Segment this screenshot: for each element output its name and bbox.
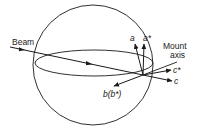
a-axis-arrow xyxy=(135,44,143,75)
b-axis-arrow xyxy=(114,75,143,86)
a-star-label: a* xyxy=(143,33,152,43)
b-bstar-label: b(b*) xyxy=(103,89,122,99)
sphere-outline xyxy=(33,5,153,125)
c-star-axis-arrow xyxy=(143,70,171,75)
diagram-canvas: Beam a a* Mount axis c* c b(b*) xyxy=(0,0,198,132)
c-label: c xyxy=(174,76,179,86)
a-label: a xyxy=(130,33,135,43)
beam-arrowhead-entry-icon xyxy=(19,47,25,51)
mount-axis-label-line2: axis xyxy=(170,50,185,60)
beam-label: Beam xyxy=(12,37,34,47)
c-axis-arrow xyxy=(143,75,172,81)
c-star-label: c* xyxy=(173,65,181,75)
equator-ellipse xyxy=(35,50,153,76)
